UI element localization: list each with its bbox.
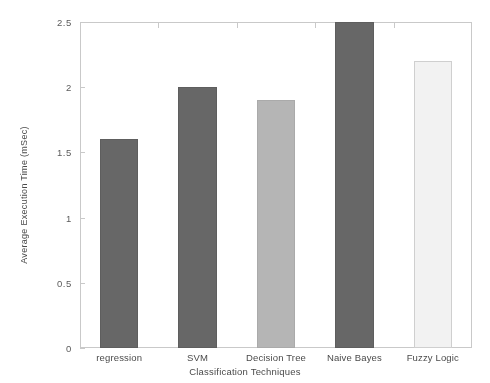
bar-regression	[100, 139, 138, 348]
bar-decision-tree	[257, 100, 295, 348]
bar-fuzzy-logic	[414, 61, 452, 348]
y-axis-tick-label: 2	[38, 82, 72, 93]
x-axis-tick-label: SVM	[187, 352, 208, 363]
bar-chart-figure: 00.511.522.5 Average Execution Time (mSe…	[0, 0, 490, 383]
x-axis-tick-label: Naive Bayes	[327, 352, 382, 363]
y-axis-tick-mark	[80, 348, 85, 349]
scan-artifact-top-strip	[60, 0, 460, 12]
bar-svm	[178, 87, 216, 348]
y-axis-tick-label: 1	[38, 212, 72, 223]
x-axis-tick-label: regression	[96, 352, 142, 363]
y-axis-tick-label: 2.5	[38, 17, 72, 28]
y-axis-title: Average Execution Time (mSec)	[19, 95, 29, 295]
x-axis-tick-label: Decision Tree	[246, 352, 306, 363]
y-axis-tick-label: 0.5	[38, 277, 72, 288]
y-axis-tick-label: 1.5	[38, 147, 72, 158]
bars-layer	[80, 22, 472, 348]
bar-naive-bayes	[335, 22, 373, 348]
x-axis-title: Classification Techniques	[0, 366, 490, 377]
x-axis-tick-label: Fuzzy Logic	[407, 352, 459, 363]
